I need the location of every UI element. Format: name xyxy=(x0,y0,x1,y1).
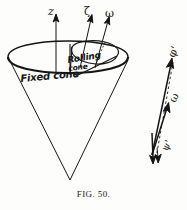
figure-page: z ζ ω Rolling cone Fixed cone φ' ω ψ' FI… xyxy=(0,0,187,210)
omega-axis-label: ω xyxy=(105,8,114,19)
figure-caption: FIG. 50. xyxy=(0,189,187,199)
psi-prime-shaft xyxy=(152,133,153,158)
figure-illustration xyxy=(0,0,187,210)
zeta-axis-label: ζ xyxy=(84,6,90,17)
z-axis-label: z xyxy=(48,6,54,17)
